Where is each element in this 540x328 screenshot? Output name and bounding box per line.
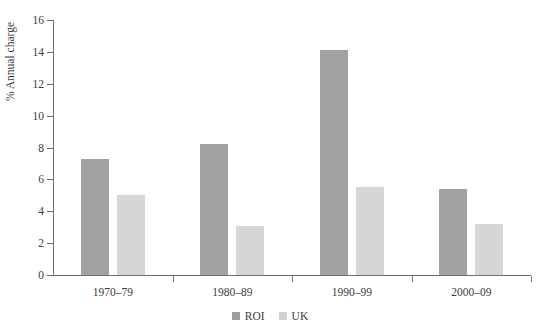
bars-layer [0, 0, 540, 275]
bar-roi-1 [200, 144, 228, 275]
bar-uk-3 [475, 224, 503, 275]
bar-group [53, 0, 173, 275]
bar-group [412, 0, 532, 275]
x-axis-label: 1970–79 [53, 285, 173, 299]
bar-roi-0 [81, 159, 109, 275]
x-tick-mark [531, 276, 532, 282]
bar-roi-2 [320, 50, 348, 275]
bar-uk-1 [236, 226, 264, 275]
x-axis-label: 1990–99 [292, 285, 412, 299]
x-tick-mark [173, 276, 174, 282]
legend-swatch-icon [279, 312, 287, 320]
bar-roi-3 [439, 189, 467, 275]
bar-chart: % Annual charge 0246810121416 1970–79198… [0, 0, 540, 328]
legend-label: UK [292, 309, 309, 323]
bar-uk-0 [117, 195, 145, 275]
legend-item-roi[interactable]: ROI [232, 309, 265, 323]
legend: ROIUK [0, 308, 540, 324]
x-tick-mark [292, 276, 293, 282]
legend-item-uk[interactable]: UK [279, 309, 309, 323]
x-tick-mark [412, 276, 413, 282]
legend-label: ROI [245, 309, 265, 323]
x-axis-label: 1980–89 [172, 285, 292, 299]
bar-uk-2 [356, 187, 384, 275]
legend-swatch-icon [232, 312, 240, 320]
x-axis-label: 2000–09 [411, 285, 531, 299]
y-tick-mark [47, 275, 53, 276]
bar-group [173, 0, 293, 275]
bar-group [292, 0, 412, 275]
